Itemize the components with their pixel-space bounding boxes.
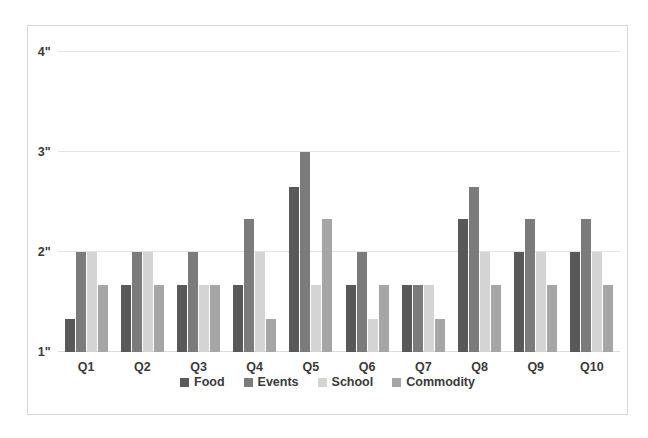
legend-swatch-icon-commodity bbox=[392, 378, 401, 387]
bar-q3-commodity bbox=[210, 285, 220, 352]
x-axis-label-q8: Q8 bbox=[471, 360, 488, 374]
y-axis-label-4: 4" bbox=[38, 45, 51, 59]
bar-group-q8: Q8 bbox=[451, 52, 507, 352]
x-axis-label-q6: Q6 bbox=[359, 360, 376, 374]
bar-q2-commodity bbox=[154, 285, 164, 352]
x-axis-label-q7: Q7 bbox=[415, 360, 432, 374]
bar-q3-events bbox=[188, 252, 198, 352]
bar-q8-food bbox=[458, 219, 468, 352]
bar-q2-food bbox=[121, 285, 131, 352]
bar-q7-school bbox=[424, 285, 434, 352]
legend-label: Food bbox=[194, 375, 225, 389]
y-axis-label-1: 1" bbox=[38, 345, 51, 359]
bar-q7-food bbox=[402, 285, 412, 352]
legend-label: School bbox=[332, 375, 374, 389]
legend-swatch-icon-food bbox=[180, 378, 189, 387]
bar-group-q2: Q2 bbox=[114, 52, 170, 352]
x-axis-label-q5: Q5 bbox=[303, 360, 320, 374]
bar-group-q10: Q10 bbox=[564, 52, 620, 352]
legend-item-school[interactable]: School bbox=[318, 375, 374, 389]
bar-q7-events bbox=[413, 285, 423, 352]
bar-q8-commodity bbox=[491, 285, 501, 352]
bar-q8-events bbox=[469, 187, 479, 352]
bar-q1-food bbox=[65, 319, 75, 352]
bar-group-q4: Q4 bbox=[227, 52, 283, 352]
bar-q6-commodity bbox=[379, 285, 389, 352]
bar-q9-food bbox=[514, 252, 524, 352]
bar-q5-food bbox=[289, 187, 299, 352]
bar-group-q9: Q9 bbox=[508, 52, 564, 352]
bar-q6-food bbox=[346, 285, 356, 352]
bar-q4-events bbox=[244, 219, 254, 352]
bar-q9-school bbox=[536, 252, 546, 352]
bar-group-q3: Q3 bbox=[170, 52, 226, 352]
bar-q9-events bbox=[525, 219, 535, 352]
chart-legend: FoodEventsSchoolCommodity bbox=[28, 375, 627, 389]
bar-q1-commodity bbox=[98, 285, 108, 352]
bar-q10-food bbox=[570, 252, 580, 352]
bar-group-q1: Q1 bbox=[58, 52, 114, 352]
bar-group-q5: Q5 bbox=[283, 52, 339, 352]
legend-label: Commodity bbox=[406, 375, 475, 389]
bar-q3-food bbox=[177, 285, 187, 352]
bar-q5-events bbox=[300, 152, 310, 352]
bar-q4-food bbox=[233, 285, 243, 352]
x-axis-label-q4: Q4 bbox=[246, 360, 263, 374]
legend-swatch-icon-events bbox=[244, 378, 253, 387]
bar-q8-school bbox=[480, 252, 490, 352]
bar-q1-events bbox=[76, 252, 86, 352]
legend-swatch-icon-school bbox=[318, 378, 327, 387]
bar-q9-commodity bbox=[547, 285, 557, 352]
legend-item-food[interactable]: Food bbox=[180, 375, 225, 389]
chart-container: 1"2"3"4" Q1Q2Q3Q4Q5Q6Q7Q8Q9Q10 FoodEvent… bbox=[27, 25, 628, 415]
x-axis-label-q3: Q3 bbox=[190, 360, 207, 374]
bar-group-q6: Q6 bbox=[339, 52, 395, 352]
x-axis-label-q1: Q1 bbox=[78, 360, 95, 374]
bar-q4-commodity bbox=[266, 319, 276, 352]
y-axis-label-3: 3" bbox=[38, 145, 51, 159]
bar-groups: Q1Q2Q3Q4Q5Q6Q7Q8Q9Q10 bbox=[58, 52, 620, 352]
bar-group-q7: Q7 bbox=[395, 52, 451, 352]
x-axis-label-q2: Q2 bbox=[134, 360, 151, 374]
bar-q6-school bbox=[368, 319, 378, 352]
x-axis-label-q10: Q10 bbox=[580, 360, 604, 374]
bar-q5-commodity bbox=[322, 219, 332, 352]
bar-q2-school bbox=[143, 252, 153, 352]
bar-q4-school bbox=[255, 252, 265, 352]
bar-q10-commodity bbox=[603, 285, 613, 352]
bar-q5-school bbox=[311, 285, 321, 352]
legend-label: Events bbox=[258, 375, 299, 389]
bar-q10-school bbox=[592, 252, 602, 352]
y-axis-label-2: 2" bbox=[38, 245, 51, 259]
bar-q6-events bbox=[357, 252, 367, 352]
plot-area: 1"2"3"4" Q1Q2Q3Q4Q5Q6Q7Q8Q9Q10 bbox=[58, 52, 620, 352]
bar-q3-school bbox=[199, 285, 209, 352]
bar-q10-events bbox=[581, 219, 591, 352]
x-axis-label-q9: Q9 bbox=[527, 360, 544, 374]
bar-q2-events bbox=[132, 252, 142, 352]
legend-item-events[interactable]: Events bbox=[244, 375, 299, 389]
bar-q1-school bbox=[87, 252, 97, 352]
bar-q7-commodity bbox=[435, 319, 445, 352]
legend-item-commodity[interactable]: Commodity bbox=[392, 375, 475, 389]
